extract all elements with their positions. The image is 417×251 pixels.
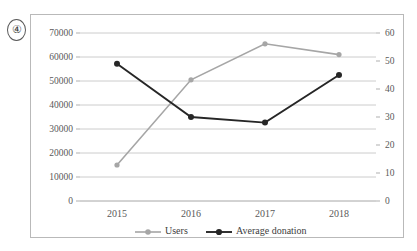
category-label-2016: 2016 (181, 208, 201, 219)
left-label-0: 0 (68, 196, 73, 206)
right-label-60: 60 (385, 28, 395, 38)
line-chart: 70000 60000 50000 40000 30000 20000 1000… (31, 15, 403, 237)
series-users-point-2017 (262, 41, 267, 46)
left-label-50000: 50000 (49, 76, 73, 86)
legend-label-average-donation: Average donation (236, 225, 307, 236)
series-average-donation (114, 61, 342, 126)
left-label-70000: 70000 (49, 28, 73, 38)
legend-item-users[interactable]: Users (135, 225, 188, 236)
right-axis-ticks (376, 33, 380, 201)
right-label-40: 40 (385, 84, 395, 94)
series-average-donation-point-2016 (188, 114, 194, 120)
item-number-badge: ④ (7, 19, 26, 41)
series-users-line (117, 44, 339, 165)
series-users-point-2015 (114, 162, 119, 167)
left-label-30000: 30000 (49, 124, 73, 134)
left-axis-ticks (76, 33, 80, 201)
right-label-20: 20 (385, 140, 395, 150)
chart-legend: Users Average donation (135, 225, 307, 236)
category-label-2017: 2017 (255, 208, 275, 219)
chart-frame: 70000 60000 50000 40000 30000 20000 1000… (30, 14, 404, 238)
legend-swatch-marker-average-donation (216, 229, 222, 235)
series-users (114, 41, 341, 167)
series-average-donation-point-2018 (336, 72, 342, 78)
legend-swatch-marker-users (145, 229, 151, 235)
category-label-2015: 2015 (107, 208, 127, 219)
left-label-40000: 40000 (49, 100, 73, 110)
right-label-50: 50 (385, 56, 395, 66)
series-average-donation-point-2015 (114, 61, 120, 67)
right-label-30: 30 (385, 112, 395, 122)
legend-item-average-donation[interactable]: Average donation (206, 225, 307, 236)
legend-label-users: Users (165, 225, 188, 236)
left-label-10000: 10000 (49, 172, 73, 182)
right-axis-labels: 60 50 40 30 20 10 0 (385, 28, 395, 206)
left-axis-labels: 70000 60000 50000 40000 30000 20000 1000… (49, 28, 73, 206)
category-labels: 2015 2016 2017 2018 (107, 208, 349, 219)
left-label-20000: 20000 (49, 148, 73, 158)
series-average-donation-point-2017 (262, 120, 268, 126)
figure-root: ④ (0, 0, 417, 251)
category-label-2018: 2018 (329, 208, 349, 219)
series-users-point-2018 (336, 52, 341, 57)
right-label-10: 10 (385, 168, 395, 178)
series-users-point-2016 (188, 77, 193, 82)
left-label-60000: 60000 (49, 52, 73, 62)
right-label-0: 0 (385, 196, 390, 206)
series-average-donation-line (117, 64, 339, 123)
